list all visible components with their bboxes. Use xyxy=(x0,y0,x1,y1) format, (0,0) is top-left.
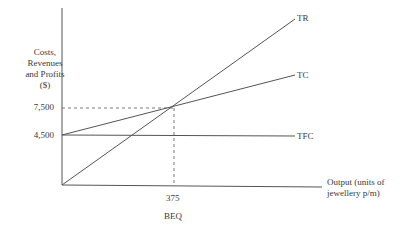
x-axis-label-line: Output (units of xyxy=(327,177,407,188)
beq-label: BEQ xyxy=(164,211,182,222)
x-axis-label: Output (units of jewellery p/m) xyxy=(327,177,407,199)
y-tick-4500: 4,500 xyxy=(14,130,54,141)
x-axis xyxy=(62,185,322,187)
tc-line xyxy=(62,75,295,135)
x-axis-label-line: jewellery p/m) xyxy=(327,188,407,199)
y-axis-label-line: Revenues xyxy=(20,58,70,69)
tc-series-label: TC xyxy=(297,70,309,81)
tr-series-label: TR xyxy=(297,13,309,24)
y-axis-label: Costs, Revenues and Profits ($) xyxy=(20,47,70,91)
tr-line xyxy=(62,19,295,185)
y-axis-label-line: Costs, xyxy=(20,47,70,58)
tfc-series-label: TFC xyxy=(297,131,314,142)
y-axis-label-line: and Profits xyxy=(20,69,70,80)
tfc-line xyxy=(62,135,295,136)
y-axis-label-line: ($) xyxy=(20,80,70,91)
y-tick-7500: 7,500 xyxy=(14,102,54,113)
x-tick-375: 375 xyxy=(166,193,180,204)
